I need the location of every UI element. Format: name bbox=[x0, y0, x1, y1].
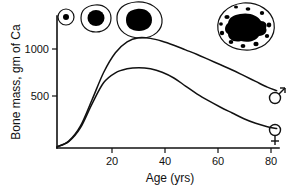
x-tick-label-20: 20 bbox=[106, 155, 118, 167]
curve-male bbox=[57, 38, 277, 147]
x-axis-title: Age (yrs) bbox=[146, 171, 195, 185]
bone-cross-section-adult bbox=[117, 2, 162, 38]
curve-female bbox=[57, 68, 277, 147]
bone-cross-section-infant bbox=[58, 9, 74, 25]
chart-canvas: 1000 500 20 40 60 80 Bone mass, gm of Ca… bbox=[0, 0, 294, 187]
bone-cross-section-elderly bbox=[218, 3, 275, 50]
bone-cross-section-child bbox=[81, 5, 111, 32]
y-tick-label-1000: 1000 bbox=[25, 43, 49, 55]
legend-male: ♂ bbox=[270, 88, 295, 104]
legend-female: ♀ bbox=[270, 120, 295, 145]
x-tick-label-40: 40 bbox=[159, 155, 171, 167]
y-axis-title: Bone mass, gm of Ca bbox=[9, 24, 23, 140]
x-tick-label-80: 80 bbox=[265, 155, 277, 167]
bone-mass-chart-figure: 1000 500 20 40 60 80 Bone mass, gm of Ca… bbox=[0, 0, 294, 187]
x-tick-label-60: 60 bbox=[212, 155, 224, 167]
y-tick-label-500: 500 bbox=[31, 90, 49, 102]
